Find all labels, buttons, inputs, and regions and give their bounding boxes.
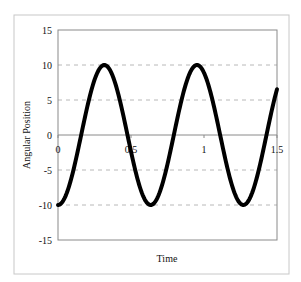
x-axis-title: Time [157, 253, 178, 264]
x-tick-label: 1 [202, 144, 207, 155]
y-tick-label: 5 [47, 95, 52, 106]
y-tick-label: 0 [47, 130, 52, 141]
y-tick-label: -15 [39, 235, 52, 246]
y-axis-title: Angular Position [21, 101, 32, 169]
x-tick-label: 1.5 [271, 144, 284, 155]
x-tick-label: 0 [56, 144, 61, 155]
chart: -15-10-5051015 00.511.5 Angular Position… [0, 0, 301, 282]
y-tick-label: 15 [42, 25, 52, 36]
y-tick-label: 10 [42, 60, 52, 71]
y-tick-label: -5 [44, 165, 52, 176]
y-tick-label: -10 [39, 200, 52, 211]
